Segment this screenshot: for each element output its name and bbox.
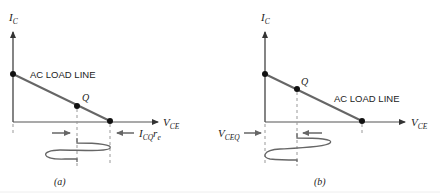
y-axis-label-b: IC: [260, 11, 271, 26]
q-point-b: [294, 86, 300, 92]
q-label-b: Q: [301, 76, 309, 87]
vce-cutoff-point-a: [107, 118, 113, 124]
vce-cutoff-point-b: [359, 118, 365, 124]
caption-a: (a): [54, 176, 66, 188]
load-line-label-b: AC LOAD LINE: [334, 93, 399, 104]
intercept-point-a: [10, 71, 16, 77]
q-label-a: Q: [82, 92, 90, 103]
side-annotation-a: ICQre: [138, 127, 161, 142]
caption-b: (b): [314, 176, 326, 188]
panel-a: IC VCE AC LOAD LINE Q ICQre (a): [8, 11, 180, 188]
panel-b: IC VCE AC LOAD LINE Q VCEQ (b): [218, 11, 428, 188]
ac-load-line-a: [13, 74, 110, 121]
intercept-point-b: [262, 71, 268, 77]
x-axis-label-a: VCE: [163, 116, 180, 131]
q-point-a: [74, 103, 80, 109]
y-axis-label-a: IC: [8, 11, 19, 26]
ac-load-line-diagram: IC VCE AC LOAD LINE Q ICQre (a) IC VCE: [0, 0, 440, 195]
side-annotation-b: VCEQ: [218, 127, 240, 142]
load-line-label-a: AC LOAD LINE: [30, 69, 95, 80]
clipped-waveform-b: [265, 133, 331, 162]
x-axis-label-b: VCE: [411, 116, 428, 131]
clipped-waveform-a: [46, 138, 111, 162]
